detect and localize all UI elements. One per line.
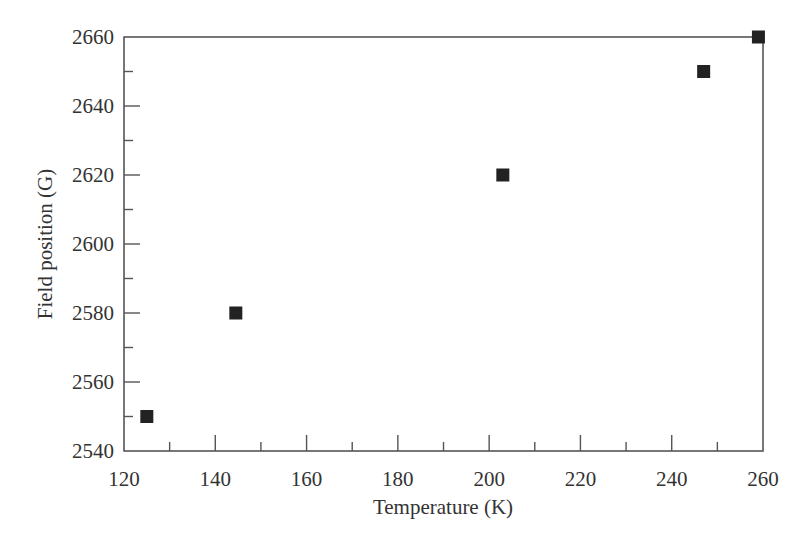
x-tick-label: 140	[200, 467, 232, 491]
y-tick-label: 2580	[72, 301, 114, 325]
x-tick-label: 160	[291, 467, 323, 491]
y-tick-label: 2600	[72, 232, 114, 256]
data-point	[229, 307, 242, 320]
x-axis-ticks: 120140160180200220240260	[108, 435, 779, 491]
x-tick-label: 120	[108, 467, 140, 491]
x-axis-label: Temperature (K)	[373, 495, 513, 519]
data-points	[140, 31, 765, 424]
data-point	[752, 31, 765, 44]
y-tick-label: 2640	[72, 94, 114, 118]
x-tick-label: 180	[382, 467, 414, 491]
x-tick-label: 260	[747, 467, 779, 491]
plot-frame	[124, 37, 763, 451]
x-tick-label: 200	[473, 467, 505, 491]
x-tick-label: 220	[565, 467, 597, 491]
y-axis-label: Field position (G)	[33, 169, 57, 320]
data-point	[496, 169, 509, 182]
data-point	[697, 65, 710, 78]
y-axis-ticks: 2540256025802600262026402660	[72, 25, 140, 463]
y-tick-label: 2620	[72, 163, 114, 187]
scatter-chart: 120140160180200220240260 254025602580260…	[0, 0, 807, 538]
y-tick-label: 2540	[72, 439, 114, 463]
y-tick-label: 2560	[72, 370, 114, 394]
x-tick-label: 240	[656, 467, 688, 491]
data-point	[140, 410, 153, 423]
y-tick-label: 2660	[72, 25, 114, 49]
